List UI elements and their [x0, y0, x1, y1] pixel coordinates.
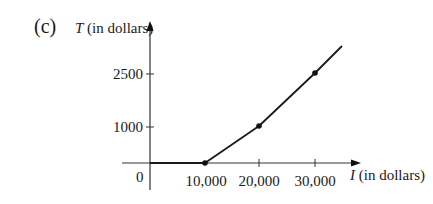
x-tick-label-30000: 30,000 [294, 173, 335, 189]
y-axis-unit: (in dollars) [83, 20, 153, 37]
x-axis-label: I (in dollars) [349, 167, 425, 184]
tax-graph: (c) T (in dollars) I (in dollars) 0 2500… [0, 0, 433, 204]
y-tick-label-1000: 1000 [113, 119, 143, 135]
x-tick-label-20000: 20,000 [238, 173, 279, 189]
data-point-10000 [202, 160, 208, 166]
x-tick-label-10000: 10,000 [185, 173, 226, 189]
y-axis-label: T (in dollars) [75, 20, 153, 37]
origin-label: 0 [136, 169, 144, 185]
data-point-30000 [312, 70, 318, 76]
data-point-20000 [256, 123, 262, 129]
x-axis-arrow-icon [351, 160, 361, 167]
x-axis-unit: (in dollars) [355, 167, 425, 184]
y-tick-label-2500: 2500 [113, 66, 143, 82]
tax-function-line [150, 46, 342, 163]
panel-label: (c) [34, 15, 56, 38]
